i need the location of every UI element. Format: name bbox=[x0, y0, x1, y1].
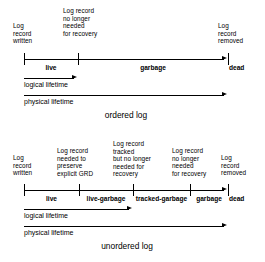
physical-lifetime-label: physical lifetime bbox=[24, 98, 73, 105]
event-label-no-longer-needed-for-recovery: Log record no longer needed for recovery bbox=[63, 7, 125, 37]
event-label-log-record-written: Log record written bbox=[13, 22, 53, 45]
segment-label-dead: dead bbox=[229, 64, 263, 71]
segment-label-garbage: garbage bbox=[78, 64, 228, 71]
segment-label-live: live bbox=[24, 64, 78, 71]
logical-lifetime-arrowhead-icon bbox=[127, 206, 132, 210]
event-label-log-record-removed: Log record removed bbox=[221, 154, 263, 177]
unordered-log-diagram: Log record written Log record needed to … bbox=[0, 131, 265, 262]
logical-lifetime-line bbox=[24, 78, 74, 79]
event-label-needed-to-preserve-explicit-grd: Log record needed to preserve explicit G… bbox=[57, 147, 113, 177]
physical-lifetime-line bbox=[24, 95, 224, 96]
diagram-caption-unordered-log: unordered log bbox=[82, 241, 172, 251]
physical-lifetime-arrowhead-icon bbox=[222, 92, 227, 96]
event-label-no-longer-needed-for-recovery: Log record no longer needed for recovery bbox=[172, 147, 226, 177]
timeline-arrowhead-icon bbox=[222, 56, 227, 60]
segment-label-tracked-garbage: tracked-garbage bbox=[133, 195, 190, 202]
logical-lifetime-label: logical lifetime bbox=[24, 81, 68, 88]
event-label-log-record-removed: Log record removed bbox=[218, 22, 262, 45]
event-label-tracked-but-no-longer-needed: Log record tracked but no longer needed … bbox=[113, 140, 171, 178]
physical-lifetime-arrowhead-icon bbox=[222, 223, 227, 227]
diagram-caption-ordered-log: ordered log bbox=[86, 110, 166, 120]
logical-lifetime-label: logical lifetime bbox=[24, 212, 68, 219]
timeline-axis bbox=[24, 190, 224, 191]
timeline-arrowhead-icon bbox=[222, 187, 227, 191]
logical-lifetime-line bbox=[24, 209, 129, 210]
physical-lifetime-line bbox=[24, 226, 224, 227]
segment-label-live: live bbox=[24, 195, 79, 202]
segment-label-dead: dead bbox=[229, 195, 263, 202]
physical-lifetime-label: physical lifetime bbox=[24, 229, 73, 236]
timeline-axis bbox=[24, 59, 224, 60]
ordered-log-diagram: Log record written Log record no longer … bbox=[0, 0, 265, 131]
segment-label-live-garbage: live-garbage bbox=[79, 195, 133, 202]
logical-lifetime-arrowhead-icon bbox=[72, 75, 77, 79]
segment-label-garbage: garbage bbox=[190, 195, 228, 202]
event-label-log-record-written: Log record written bbox=[13, 154, 53, 177]
